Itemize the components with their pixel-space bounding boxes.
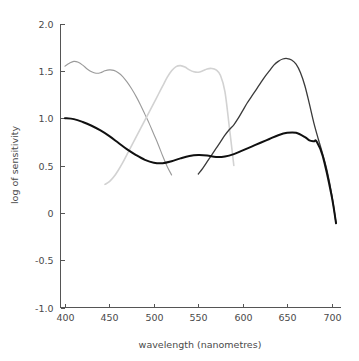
y-tick-label: 0 — [47, 208, 53, 219]
y-tick-label: 1.5 — [38, 66, 53, 77]
chart-figure: 400450500550600650700 -1.0-0.500.51.01.5… — [0, 0, 359, 361]
short-wavelength-curve — [65, 61, 172, 175]
x-tick-label: 700 — [323, 312, 341, 323]
x-tick-label: 500 — [145, 312, 163, 323]
y-axis-title: log of sensitivity — [9, 126, 20, 204]
middle-wavelength-curve — [105, 66, 234, 185]
x-axis-title: wavelength (nanometres) — [139, 339, 262, 350]
y-tick-label: -0.5 — [35, 255, 54, 266]
x-axis-ticks: 400450500550600650700 — [56, 304, 341, 323]
x-tick-label: 650 — [278, 312, 296, 323]
x-tick-label: 550 — [189, 312, 207, 323]
x-tick-label: 600 — [234, 312, 252, 323]
axis-frame — [61, 24, 341, 308]
sensitivity-line-chart: 400450500550600650700 -1.0-0.500.51.01.5… — [0, 0, 359, 361]
x-tick-label: 400 — [56, 312, 74, 323]
y-tick-label: -1.0 — [35, 303, 54, 314]
y-tick-label: 0.5 — [38, 161, 53, 172]
y-tick-label: 1.0 — [38, 113, 53, 124]
x-tick-label: 450 — [100, 312, 118, 323]
y-tick-label: 2.0 — [38, 19, 53, 30]
data-curves — [65, 58, 336, 223]
